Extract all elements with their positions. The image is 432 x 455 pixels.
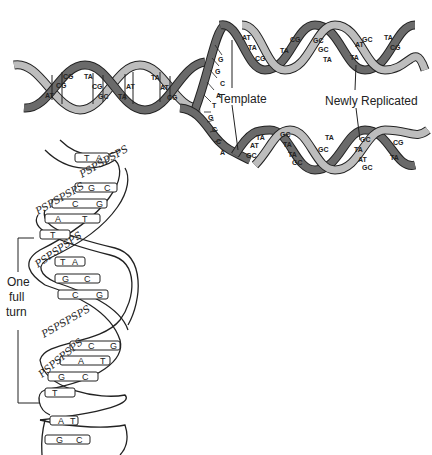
- svg-text:TA: TA: [350, 54, 359, 61]
- svg-text:AT: AT: [126, 83, 136, 90]
- svg-text:CG: CG: [92, 83, 103, 90]
- svg-text:G: G: [96, 199, 103, 209]
- svg-text:A: A: [78, 356, 84, 366]
- svg-text:A: A: [72, 257, 78, 267]
- svg-text:T: T: [84, 153, 90, 163]
- svg-text:T: T: [82, 214, 88, 224]
- svg-text:T: T: [52, 388, 58, 398]
- svg-text:T: T: [60, 257, 66, 267]
- svg-text:CG: CG: [255, 55, 266, 62]
- svg-text:G: G: [88, 183, 95, 193]
- svg-text:G: G: [56, 435, 63, 445]
- template-label: Template: [218, 92, 267, 106]
- svg-text:TA: TA: [354, 146, 363, 153]
- svg-text:TA: TA: [288, 151, 297, 158]
- svg-text:C: C: [84, 274, 91, 284]
- svg-text:GC: GC: [360, 136, 371, 143]
- newly-replicated-label: Newly Replicated: [325, 94, 418, 108]
- svg-text:CG: CG: [56, 82, 67, 89]
- svg-text:GC: GC: [318, 46, 329, 53]
- svg-text:G: G: [58, 372, 65, 382]
- svg-text:TA: TA: [256, 134, 265, 141]
- svg-text:C: C: [76, 435, 83, 445]
- svg-text:T: T: [212, 102, 217, 109]
- one-full-turn-label-line1: One: [7, 275, 30, 289]
- svg-text:A: A: [220, 149, 225, 156]
- lower-daughter-helix: TA AT GC GC TA TA GC TA GC GC TA AT GC T…: [235, 130, 428, 171]
- svg-text:G: G: [218, 56, 224, 63]
- parent-helix: AT CG CG TA CG GC TA AT TA AT CG: [14, 62, 205, 110]
- svg-text:TA: TA: [118, 93, 127, 100]
- svg-text:AT: AT: [242, 34, 252, 41]
- svg-text:T: T: [70, 416, 76, 426]
- svg-text:CG: CG: [393, 139, 404, 146]
- svg-text:TA: TA: [390, 154, 399, 161]
- svg-text:C: C: [216, 138, 221, 145]
- svg-text:C: C: [88, 341, 95, 351]
- svg-text:CG: CG: [290, 36, 301, 43]
- svg-text:C: C: [220, 80, 225, 87]
- dna-diagram: AT CG CG TA CG GC TA AT TA AT CG G G C A…: [0, 0, 432, 455]
- svg-text:G: G: [96, 290, 103, 300]
- svg-text:C: C: [72, 199, 79, 209]
- svg-text:TA: TA: [283, 141, 292, 148]
- one-full-turn-label-line2: full: [9, 290, 24, 304]
- svg-text:C: C: [72, 290, 79, 300]
- svg-text:GC: GC: [362, 164, 373, 171]
- svg-text:T: T: [50, 230, 56, 240]
- svg-text:TA: TA: [280, 47, 289, 54]
- svg-text:C: C: [212, 126, 217, 133]
- svg-text:TA: TA: [84, 73, 93, 80]
- svg-text:TA: TA: [325, 134, 334, 141]
- svg-text:CG: CG: [390, 44, 401, 51]
- svg-text:C: C: [82, 372, 89, 382]
- svg-text:A: A: [55, 214, 61, 224]
- svg-text:C: C: [104, 183, 111, 193]
- svg-text:PSPSPSPS: PSPSPSPS: [39, 303, 93, 340]
- svg-text:TA: TA: [384, 34, 393, 41]
- upper-daughter-helix: AT TA CG CG TA GC GC TA TA AT GC TA CG: [220, 25, 425, 70]
- svg-text:G: G: [62, 274, 69, 284]
- svg-text:CG: CG: [63, 73, 74, 80]
- svg-text:GC: GC: [292, 159, 303, 166]
- svg-text:TA: TA: [323, 56, 332, 63]
- svg-text:GC: GC: [313, 37, 324, 44]
- one-full-turn-label-line3: turn: [6, 305, 27, 319]
- svg-text:G: G: [208, 114, 214, 121]
- svg-text:GC: GC: [246, 152, 257, 159]
- svg-text:AT: AT: [45, 92, 55, 99]
- svg-text:AT: AT: [358, 156, 368, 163]
- svg-text:AT: AT: [250, 142, 260, 149]
- svg-text:GC: GC: [362, 36, 373, 43]
- svg-text:AT: AT: [160, 84, 170, 91]
- svg-text:GC: GC: [318, 146, 329, 153]
- svg-text:TA: TA: [151, 74, 160, 81]
- svg-text:G: G: [110, 341, 117, 351]
- svg-text:GC: GC: [98, 93, 109, 100]
- svg-text:CG: CG: [167, 94, 178, 101]
- svg-text:TA: TA: [248, 44, 257, 51]
- svg-text:T: T: [100, 356, 106, 366]
- svg-text:GC: GC: [280, 131, 291, 138]
- svg-text:G: G: [215, 68, 221, 75]
- svg-text:A: A: [58, 416, 64, 426]
